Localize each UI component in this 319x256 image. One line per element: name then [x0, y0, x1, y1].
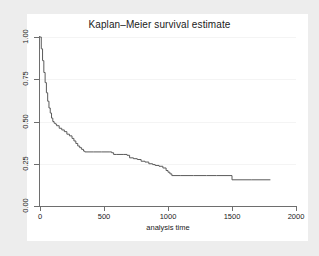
kaplan-meier-step-line [40, 37, 270, 180]
figure-canvas: Kaplan–Meier survival estimate 0.000.250… [0, 0, 319, 256]
survival-curve-plot [0, 0, 319, 256]
